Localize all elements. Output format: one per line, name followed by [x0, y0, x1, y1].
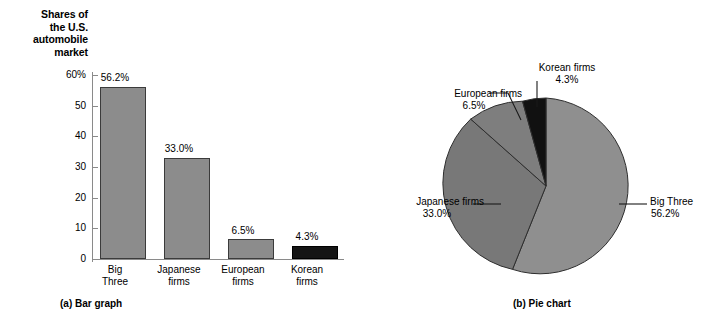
pie-chart-svg [370, 0, 722, 332]
axis-title-line-2: the U.S. [8, 21, 88, 34]
bar-korean-firms[interactable] [292, 246, 338, 259]
y-tick-label-10: 10 [40, 223, 86, 233]
pie-label-big-three-value: 56.2% [650, 208, 693, 220]
panel-b-caption: (b) Pie chart [513, 298, 571, 309]
axis-title-line-3: automobile [8, 33, 88, 46]
x-axis-line [92, 259, 344, 260]
panel-a-caption: (a) Bar graph [60, 298, 122, 309]
bar-japanese-firms[interactable] [164, 158, 210, 259]
pie-label-korean-name: Korean firms [523, 62, 611, 74]
y-tick-label-30: 30 [40, 162, 86, 172]
axis-title-line-4: market [8, 46, 88, 59]
pie-label-european-firms: European firms 6.5% [428, 88, 522, 111]
y-tick-label-50: 50 [40, 101, 86, 111]
bar-graph-panel: Shares of the U.S. automobile market 60%… [0, 0, 370, 332]
figure-bar-and-pie: Shares of the U.S. automobile market 60%… [0, 0, 722, 332]
pie-label-japanese-name: Japanese firms [392, 196, 484, 208]
y-tick-0 [92, 259, 98, 260]
axis-title-line-1: Shares of [8, 8, 88, 21]
pie-label-european-name: European firms [428, 88, 522, 100]
pie-label-korean-value: 4.3% [523, 74, 611, 86]
y-tick-label-20: 20 [40, 193, 86, 203]
pie-label-korean-firms: Korean firms 4.3% [523, 62, 611, 85]
pie-label-big-three: Big Three 56.2% [650, 196, 693, 219]
bar-value-big-three: 56.2% [77, 73, 153, 83]
bar-axis-title: Shares of the U.S. automobile market [8, 8, 88, 58]
pie-label-big-three-name: Big Three [650, 196, 693, 208]
category-label-korean-firms: Korean firms [269, 264, 345, 287]
pie-chart-panel [370, 0, 722, 332]
pie-label-japanese-value: 33.0% [392, 208, 484, 220]
pie-label-japanese-firms: Japanese firms 33.0% [392, 196, 484, 219]
bar-value-japanese-firms: 33.0% [141, 144, 217, 154]
bar-value-korean-firms: 4.3% [269, 232, 345, 242]
y-tick-label-0: 0 [40, 254, 86, 264]
bar-european-firms[interactable] [228, 239, 274, 259]
category-label-korean-line2: firms [269, 276, 345, 288]
bar-big-three[interactable] [100, 87, 146, 259]
y-tick-label-40: 40 [40, 131, 86, 141]
category-label-korean-line1: Korean [269, 264, 345, 276]
pie-label-european-value: 6.5% [428, 100, 522, 112]
